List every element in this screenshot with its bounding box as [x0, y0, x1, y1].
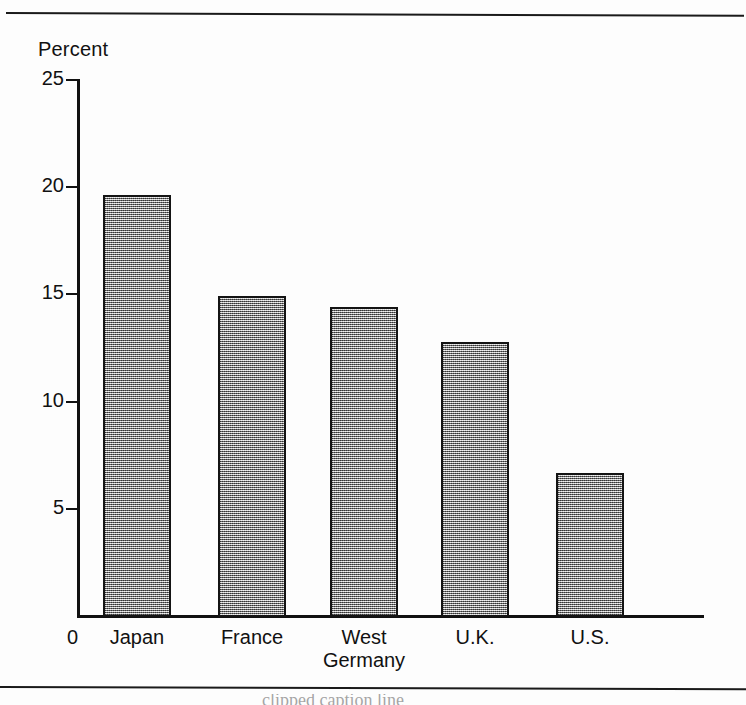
y-axis-title: Percent: [38, 38, 108, 61]
y-tick-label-10: 10: [12, 389, 64, 412]
y-tick-25: [66, 79, 79, 81]
y-tick-15: [66, 293, 79, 295]
y-tick-label-20: 20: [12, 174, 64, 197]
bar-uk: [441, 342, 509, 617]
y-axis-line: [77, 79, 80, 618]
bar-us: [556, 473, 624, 617]
x-label-west-germany: WestGermany: [304, 626, 424, 672]
page-rule-bottom: [0, 686, 746, 690]
y-tick-label-15: 15: [12, 281, 64, 304]
page-canvas: Percent 25 20 15 10 5 0 Japan France Wes…: [0, 0, 746, 705]
x-label-japan: Japan: [77, 626, 197, 649]
y-tick-label-5: 5: [12, 496, 64, 519]
bar-japan: [103, 195, 171, 617]
x-label-france: France: [192, 626, 312, 649]
y-tick-20: [66, 186, 79, 188]
bar-france: [218, 296, 286, 617]
x-label-us: U.S.: [530, 626, 650, 649]
bar-chart: Percent 25 20 15 10 5 0 Japan France Wes…: [0, 0, 746, 686]
page-caption: clipped caption line: [0, 694, 746, 705]
x-label-uk: U.K.: [415, 626, 535, 649]
caption-text: clipped caption line: [262, 694, 404, 705]
y-tick-label-25: 25: [12, 67, 64, 90]
y-tick-10: [66, 401, 79, 403]
y-tick-label-0: 0: [26, 626, 78, 649]
bar-west-germany: [330, 307, 398, 617]
y-tick-5: [66, 508, 79, 510]
